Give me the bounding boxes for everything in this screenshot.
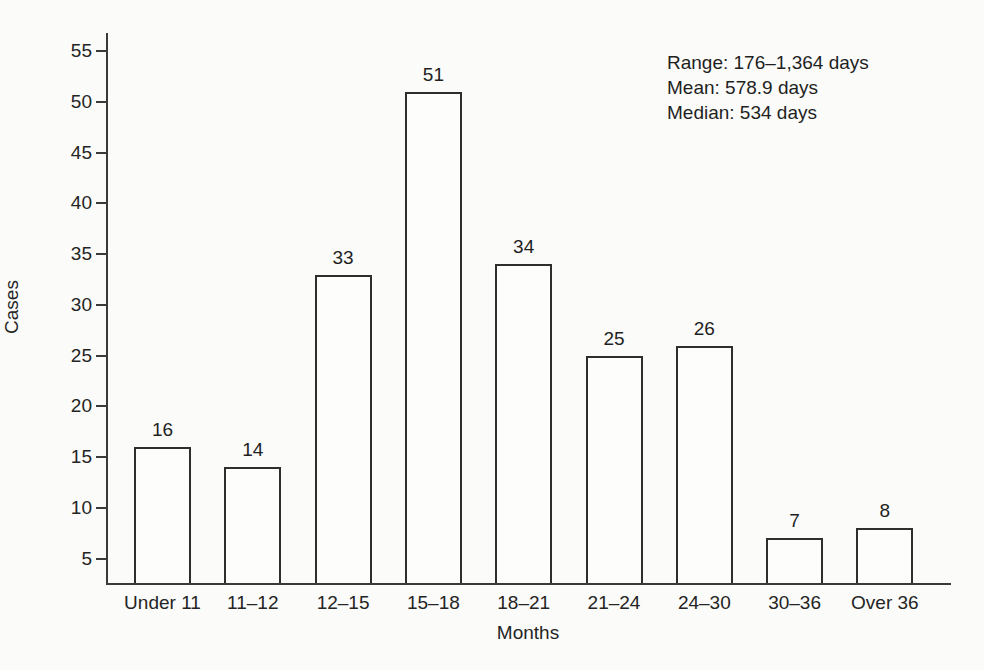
bar-value-label: 8 (850, 500, 920, 522)
y-tick-label: 55 (34, 39, 92, 63)
y-axis-title: Cases (1, 177, 23, 437)
y-tick-mark (96, 405, 106, 407)
y-tick-label: 45 (34, 141, 92, 165)
y-tick-mark (96, 253, 106, 255)
bar (586, 356, 643, 583)
y-tick-label: 10 (34, 496, 92, 520)
y-tick-label: 20 (34, 394, 92, 418)
bar (405, 92, 462, 583)
y-tick-mark (96, 507, 106, 509)
bar-value-label: 51 (398, 64, 468, 86)
bar-value-label: 34 (489, 236, 559, 258)
y-axis-line (106, 33, 108, 585)
y-tick-mark (96, 456, 106, 458)
y-tick-label: 15 (34, 445, 92, 469)
y-tick-label: 25 (34, 344, 92, 368)
bar (766, 538, 823, 583)
y-tick-label: 40 (34, 191, 92, 215)
bar-chart-figure: Cases 51015202530354045505516Under 11141… (0, 0, 984, 670)
x-axis-title: Months (428, 622, 628, 644)
bar-value-label: 7 (760, 510, 830, 532)
annotation-mean: Mean: 578.9 days (667, 75, 869, 100)
y-tick-mark (96, 50, 106, 52)
bar-value-label: 14 (218, 439, 288, 461)
y-tick-label: 50 (34, 90, 92, 114)
y-tick-mark (96, 355, 106, 357)
bar-value-label: 16 (128, 419, 198, 441)
bar (495, 264, 552, 583)
y-tick-mark (96, 101, 106, 103)
bar-value-label: 26 (669, 318, 739, 340)
bar (676, 346, 733, 583)
y-tick-mark (96, 558, 106, 560)
y-tick-mark (96, 304, 106, 306)
bar (134, 447, 191, 583)
stats-annotation: Range: 176–1,364 days Mean: 578.9 days M… (667, 50, 869, 125)
bar (224, 467, 281, 583)
y-tick-mark (96, 152, 106, 154)
y-tick-label: 5 (34, 547, 92, 571)
y-tick-mark (96, 202, 106, 204)
annotation-range: Range: 176–1,364 days (667, 50, 869, 75)
bar (856, 528, 913, 583)
x-axis-line (106, 583, 951, 585)
bar-value-label: 25 (579, 328, 649, 350)
bar-value-label: 33 (308, 247, 378, 269)
annotation-median: Median: 534 days (667, 100, 869, 125)
bar (315, 275, 372, 583)
y-tick-label: 35 (34, 242, 92, 266)
x-tick-label: Over 36 (830, 591, 940, 615)
y-tick-label: 30 (34, 293, 92, 317)
